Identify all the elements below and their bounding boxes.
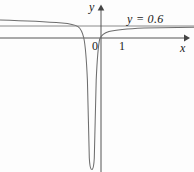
curve-left-branch bbox=[0, 20, 91, 169]
y-axis-label: y bbox=[89, 1, 94, 13]
x-axis-label: x bbox=[180, 42, 185, 54]
y-axis-arrow-icon bbox=[98, 5, 105, 11]
x-tick-label-one: 1 bbox=[119, 40, 125, 52]
origin-tick-label: 0 bbox=[92, 40, 98, 52]
asymptote-label: y = 0.6 bbox=[127, 13, 164, 25]
plot-canvas bbox=[0, 0, 194, 172]
graph-figure: y x 0 1 y = 0.6 bbox=[0, 0, 194, 172]
curve-right-branch bbox=[92, 27, 194, 169]
